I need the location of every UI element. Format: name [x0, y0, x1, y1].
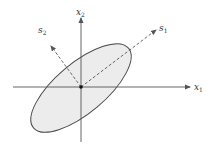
x1-label: x1 [194, 82, 203, 93]
x2-label: x2 [76, 7, 85, 18]
diagram-canvas: x2 x1 s1 s2 [0, 0, 211, 150]
origin-point [79, 85, 83, 89]
s1-label: s1 [159, 23, 167, 34]
s2-label: s2 [38, 25, 47, 36]
